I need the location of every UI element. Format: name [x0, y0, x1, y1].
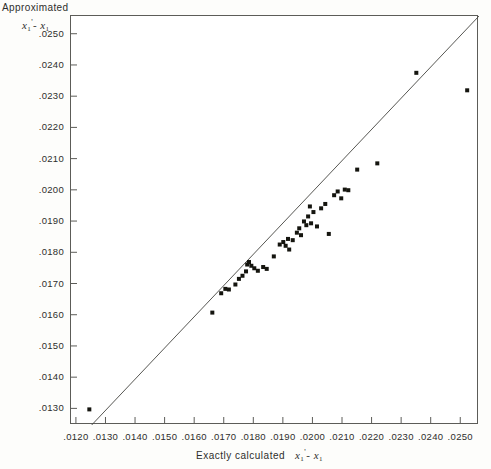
- data-point: [265, 267, 269, 271]
- data-point: [414, 71, 418, 75]
- y-tick-label: .0220: [20, 121, 64, 132]
- data-point: [311, 210, 315, 214]
- data-point: [237, 277, 241, 281]
- y-tick-label: .0200: [20, 184, 64, 195]
- y-tick-label: .0190: [20, 215, 64, 226]
- data-point: [247, 260, 251, 264]
- data-point: [304, 223, 308, 227]
- x-axis-title: Exactly calculated x1'- x1: [196, 448, 323, 462]
- data-point: [284, 244, 288, 248]
- data-point: [355, 168, 359, 172]
- y-tick-label: .0130: [20, 402, 64, 413]
- y-tick-label: .0150: [20, 340, 64, 351]
- data-point: [272, 254, 276, 258]
- data-point: [219, 291, 223, 295]
- y-tick-label: .0250: [20, 28, 64, 39]
- data-point: [306, 214, 310, 218]
- data-point: [252, 266, 256, 270]
- scatter-plot-svg: [71, 16, 479, 425]
- data-point: [327, 232, 331, 236]
- y-tick-label: .0180: [20, 246, 64, 257]
- y-axis-title-line1: Approximated: [2, 2, 69, 13]
- data-point: [315, 224, 319, 228]
- identity-line: [71, 16, 479, 425]
- data-point: [261, 265, 265, 269]
- data-point: [332, 193, 336, 197]
- data-point: [227, 287, 231, 291]
- data-point: [299, 233, 303, 237]
- data-point: [286, 237, 290, 241]
- data-point: [291, 238, 295, 242]
- x-tick-label: .0250: [440, 431, 480, 442]
- y-tick-label: .0230: [20, 90, 64, 101]
- data-point: [223, 287, 227, 291]
- data-point: [256, 269, 260, 273]
- x-axis-title-text: Exactly calculated: [196, 450, 285, 461]
- identity-reference-line: [71, 16, 479, 425]
- data-point: [244, 269, 248, 273]
- data-point: [278, 243, 282, 247]
- data-point: [210, 311, 214, 315]
- data-point: [233, 283, 237, 287]
- y-tick-label: .0210: [20, 153, 64, 164]
- data-point: [375, 161, 379, 165]
- data-point: [323, 202, 327, 206]
- data-point: [465, 88, 469, 92]
- data-point: [302, 219, 306, 223]
- data-point: [295, 231, 299, 235]
- data-point: [287, 248, 291, 252]
- data-point: [343, 188, 347, 192]
- y-tick-label: .0160: [20, 309, 64, 320]
- data-point: [319, 206, 323, 210]
- y-tick-label: .0140: [20, 371, 64, 382]
- data-point: [240, 274, 244, 278]
- plot-area: [70, 15, 478, 424]
- data-point: [339, 196, 343, 200]
- y-tick-label: .0240: [20, 59, 64, 70]
- data-point: [309, 221, 313, 225]
- data-point: [297, 226, 301, 230]
- data-point: [346, 188, 350, 192]
- data-point: [281, 240, 285, 244]
- data-point: [308, 204, 312, 208]
- x-axis-variable-expression: x1'- x1: [295, 449, 323, 461]
- data-points-group: [87, 71, 469, 412]
- y-tick-label: .0170: [20, 278, 64, 289]
- data-point: [87, 407, 91, 411]
- data-point: [336, 189, 340, 193]
- figure-container: Approximated x1'- x1 Exactly calculated …: [0, 0, 491, 469]
